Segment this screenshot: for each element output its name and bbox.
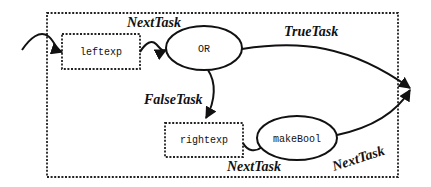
or-node[interactable]: OR <box>166 26 242 70</box>
rightexp-node[interactable]: rightexp <box>165 123 243 157</box>
nexttask-label-1: NextTask <box>126 15 181 30</box>
nexttask-label-3: NextTask <box>329 143 386 174</box>
leftexp-to-or-edge <box>140 42 166 52</box>
or-false-edge <box>206 70 214 118</box>
or-label: OR <box>198 44 210 55</box>
truetask-label: TrueTask <box>284 24 338 39</box>
leftexp-label: leftexp <box>80 47 122 58</box>
entry-edge <box>22 34 62 52</box>
diagram-canvas: leftexp NextTask OR TrueTask FalseTask r… <box>0 0 431 187</box>
falsetask-label: FalseTask <box>143 92 203 107</box>
or-true-edge <box>242 45 410 88</box>
rightexp-label: rightexp <box>180 135 228 146</box>
makebool-label: makeBool <box>273 134 321 145</box>
leftexp-node[interactable]: leftexp <box>62 34 140 69</box>
nexttask-label-2: NextTask <box>226 159 281 174</box>
makebool-exit-edge <box>337 90 410 135</box>
makebool-node[interactable]: makeBool <box>257 116 337 160</box>
